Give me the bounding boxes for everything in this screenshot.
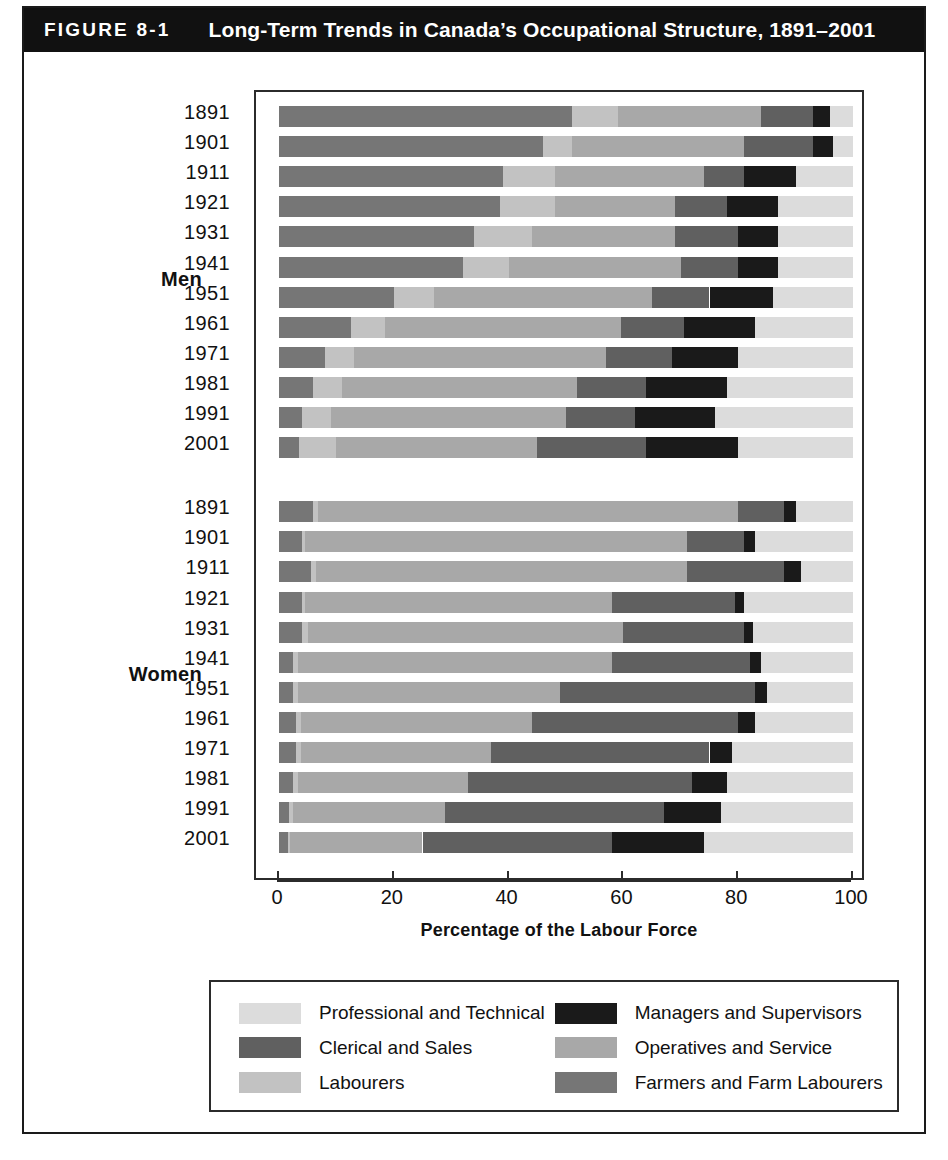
bar-track xyxy=(279,652,853,673)
bar-segment-managers xyxy=(744,166,796,187)
bar-segment-managers xyxy=(646,437,738,458)
bar-row xyxy=(279,652,853,673)
legend-item-farmers: Farmers and Farm Labourers xyxy=(555,1065,883,1100)
bar-row xyxy=(279,531,853,552)
x-tick-label-40: 40 xyxy=(485,886,529,909)
bar-segment-managers xyxy=(784,501,795,522)
year-label-1891: 1891 xyxy=(164,496,230,519)
bar-segment-labourers xyxy=(543,136,572,157)
bar-segment-operatives xyxy=(298,652,612,673)
bar-segment-professional xyxy=(761,652,853,673)
bar-segment-operatives xyxy=(331,407,566,428)
bar-segment-professional xyxy=(738,437,853,458)
bar-segment-operatives xyxy=(305,531,687,552)
bar-segment-farmers xyxy=(279,287,394,308)
bar-segment-professional xyxy=(767,682,853,703)
x-tick-label-80: 80 xyxy=(714,886,758,909)
bar-track xyxy=(279,287,853,308)
bar-segment-professional xyxy=(833,136,853,157)
bar-segment-professional xyxy=(721,802,853,823)
bar-segment-professional xyxy=(830,106,853,127)
bar-segment-clerical xyxy=(687,531,744,552)
bar-segment-farmers xyxy=(279,682,293,703)
bar-segment-operatives xyxy=(316,561,686,582)
bar-track xyxy=(279,802,853,823)
bar-row xyxy=(279,136,853,157)
bar-segment-labourers xyxy=(500,196,555,217)
bar-segment-clerical xyxy=(612,592,735,613)
bar-segment-farmers xyxy=(279,257,463,278)
bar-segment-farmers xyxy=(279,531,302,552)
bar-segment-professional xyxy=(778,196,853,217)
figure-number: FIGURE 8-1 xyxy=(44,19,171,41)
x-tick-label-0: 0 xyxy=(255,886,299,909)
bar-segment-professional xyxy=(778,226,853,247)
bar-segment-professional xyxy=(755,712,853,733)
bar-segment-farmers xyxy=(279,832,288,853)
year-label-1891: 1891 xyxy=(164,101,230,124)
year-label-1971: 1971 xyxy=(164,342,230,365)
x-tick-60 xyxy=(621,871,623,880)
bar-segment-farmers xyxy=(279,377,313,398)
bar-segment-operatives xyxy=(509,257,681,278)
bar-segment-farmers xyxy=(279,802,289,823)
bar-segment-managers xyxy=(784,561,801,582)
x-tick-label-60: 60 xyxy=(599,886,643,909)
bar-track xyxy=(279,712,853,733)
bar-row xyxy=(279,226,853,247)
bar-row xyxy=(279,622,853,643)
bar-row xyxy=(279,712,853,733)
year-label-1991: 1991 xyxy=(164,402,230,425)
bar-segment-managers xyxy=(684,317,756,338)
bar-segment-managers xyxy=(738,257,778,278)
bar-track xyxy=(279,407,853,428)
x-axis-line xyxy=(277,880,851,882)
bar-row xyxy=(279,561,853,582)
bar-segment-professional xyxy=(744,592,853,613)
bar-segment-farmers xyxy=(279,652,293,673)
bar-segment-farmers xyxy=(279,561,311,582)
bar-segment-farmers xyxy=(279,196,500,217)
bar-segment-farmers xyxy=(279,226,474,247)
bar-segment-clerical xyxy=(652,287,709,308)
group-label-women: Women xyxy=(82,663,202,686)
bar-segment-managers xyxy=(750,652,761,673)
bar-segment-farmers xyxy=(279,772,293,793)
x-tick-0 xyxy=(277,871,279,880)
bar-segment-professional xyxy=(732,742,853,763)
bar-track xyxy=(279,592,853,613)
legend-label-professional: Professional and Technical xyxy=(319,1002,545,1024)
bar-segment-farmers xyxy=(279,437,299,458)
year-label-1991: 1991 xyxy=(164,797,230,820)
year-label-2001: 2001 xyxy=(164,432,230,455)
bar-track xyxy=(279,347,853,368)
year-label-1921: 1921 xyxy=(164,191,230,214)
bar-segment-farmers xyxy=(279,136,543,157)
legend-label-managers: Managers and Supervisors xyxy=(635,1002,862,1024)
bar-segment-managers xyxy=(735,592,744,613)
bar-row xyxy=(279,832,853,853)
bar-segment-clerical xyxy=(623,622,744,643)
bar-segment-operatives xyxy=(290,832,422,853)
bar-segment-professional xyxy=(727,772,853,793)
bar-track xyxy=(279,531,853,552)
x-tick-40 xyxy=(507,871,509,880)
legend-box: Professional and TechnicalManagers and S… xyxy=(209,980,899,1112)
bar-segment-operatives xyxy=(555,166,704,187)
year-label-1901: 1901 xyxy=(164,526,230,549)
bar-row xyxy=(279,407,853,428)
bar-segment-farmers xyxy=(279,106,572,127)
bar-segment-labourers xyxy=(463,257,509,278)
legend-grid: Professional and TechnicalManagers and S… xyxy=(239,996,875,1100)
bar-segment-farmers xyxy=(279,742,296,763)
bar-segment-operatives xyxy=(293,802,445,823)
bar-segment-clerical xyxy=(761,106,813,127)
bar-segment-operatives xyxy=(336,437,537,458)
legend-item-clerical: Clerical and Sales xyxy=(239,1031,545,1066)
bar-segment-labourers xyxy=(572,106,618,127)
bar-segment-professional xyxy=(801,561,853,582)
bar-segment-professional xyxy=(727,377,853,398)
bar-segment-clerical xyxy=(560,682,755,703)
bar-segment-professional xyxy=(753,622,853,643)
bar-segment-operatives xyxy=(555,196,676,217)
